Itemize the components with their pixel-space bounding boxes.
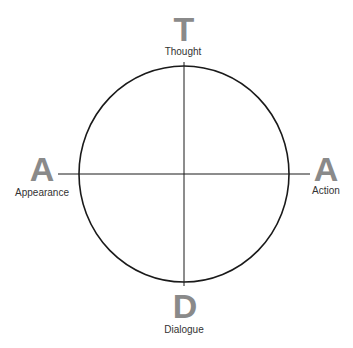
right-label: Action [286, 186, 353, 196]
bottom-label: Dialogue [144, 325, 224, 335]
left-label: Appearance [2, 188, 82, 198]
bottom-letter: D [165, 289, 205, 323]
left-letter: A [22, 152, 62, 186]
right-letter: A [306, 152, 346, 186]
top-label: Thought [143, 47, 223, 57]
top-letter: T [164, 12, 204, 46]
